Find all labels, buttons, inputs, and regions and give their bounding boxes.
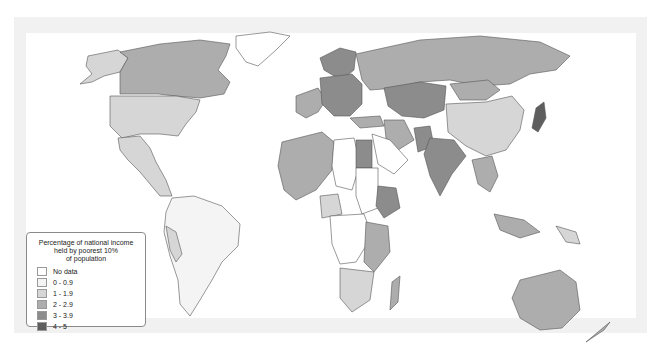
region-russia	[356, 36, 570, 90]
region-japan	[532, 102, 546, 132]
region-australia	[512, 270, 580, 330]
legend-title-line-2: held by poorest 10%	[30, 247, 142, 255]
legend-title-line-1: Percentage of national income	[30, 239, 142, 247]
region-central-asia	[384, 82, 446, 118]
region-greenland	[236, 32, 290, 66]
legend-item-0-0.9: 0 - 0.9	[37, 277, 145, 288]
legend-swatch	[37, 289, 47, 298]
map-legend: Percentage of national income held by po…	[26, 232, 146, 327]
region-indonesia	[494, 214, 540, 238]
region-east-africa	[364, 222, 390, 272]
region-india	[424, 138, 466, 196]
region-ethiopia	[376, 186, 400, 218]
region-southeast-asia	[472, 156, 498, 192]
region-sudan	[356, 168, 378, 214]
region-egypt	[356, 140, 372, 168]
legend-label: 3 - 3.9	[53, 312, 73, 319]
region-eastern-europe	[320, 74, 362, 116]
legend-title-line-3: of population	[30, 255, 142, 263]
legend-item-2-2.9: 2 - 2.9	[37, 299, 145, 310]
legend-title: Percentage of national income held by po…	[27, 239, 145, 263]
region-madagascar	[390, 276, 400, 310]
legend-swatch	[37, 322, 47, 331]
legend-item-no-data: No data	[37, 266, 145, 277]
region-mexico	[118, 136, 172, 196]
legend-swatch	[37, 278, 47, 287]
legend-items: No data 0 - 0.9 1 - 1.9 2 - 2.9 3 - 3.9 …	[37, 266, 145, 332]
legend-label: 0 - 0.9	[53, 279, 73, 286]
region-southern-africa	[340, 268, 374, 312]
legend-swatch	[37, 267, 47, 276]
region-turkey	[350, 116, 384, 128]
region-papua	[556, 226, 580, 244]
legend-label: 2 - 2.9	[53, 301, 73, 308]
legend-label: 4 - 5	[53, 323, 67, 330]
region-nigeria	[320, 194, 342, 218]
region-canada	[120, 40, 230, 98]
legend-item-3-3.9: 3 - 3.9	[37, 310, 145, 321]
region-usa	[110, 96, 200, 138]
legend-swatch	[37, 300, 47, 309]
legend-label: No data	[53, 268, 78, 275]
legend-item-1-1.9: 1 - 1.9	[37, 288, 145, 299]
region-north-west-africa	[278, 132, 334, 200]
region-scandinavia	[320, 48, 356, 78]
legend-item-4-5: 4 - 5	[37, 321, 145, 332]
legend-label: 1 - 1.9	[53, 290, 73, 297]
legend-swatch	[37, 311, 47, 320]
region-new-zealand	[586, 322, 610, 342]
